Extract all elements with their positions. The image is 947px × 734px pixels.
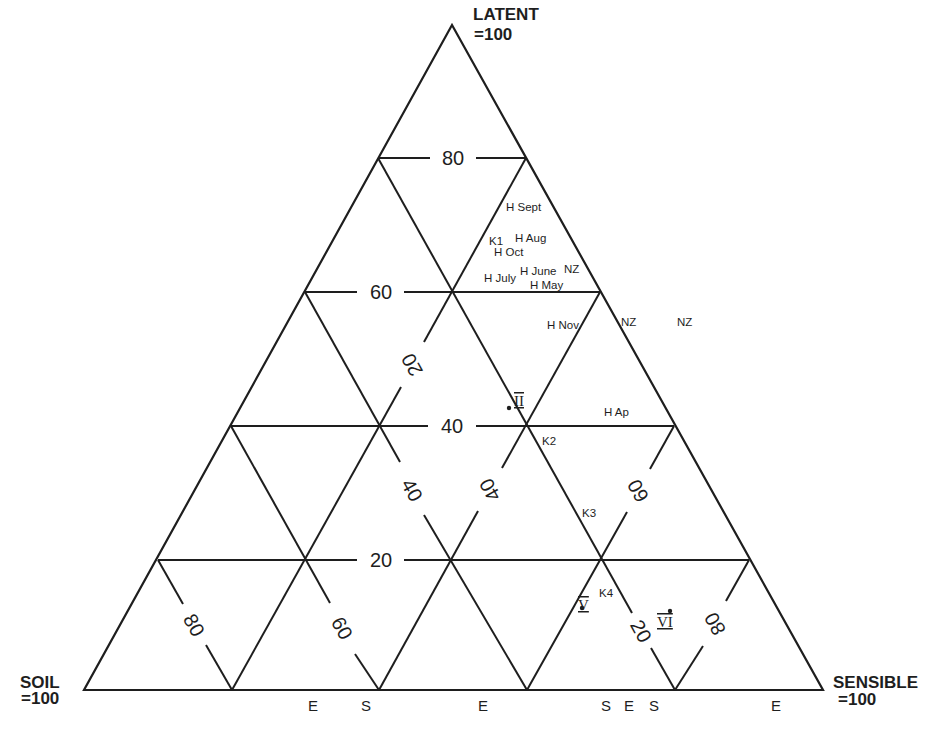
point-ii: II [514,393,524,409]
ternary-diagram: 80 60 40 20 20 40 40 60 80 60 20 80 LATE… [0,0,947,734]
base-mark-s: S [361,697,371,714]
vertex-sensible-value: =100 [838,690,876,709]
vertex-latent-value: =100 [474,25,512,44]
point-h-june: H June [520,265,556,277]
base-mark-s: S [601,697,611,714]
point-k3: K3 [582,507,596,519]
vertex-soil-value: =100 [21,689,59,708]
point-nz-3: NZ [677,316,692,328]
base-mark-e: E [308,697,318,714]
point-k4: K4 [599,587,614,599]
point-ii-dot [507,406,511,410]
tick-diag-60-left: 60 [327,613,357,643]
tick-diag-20-lower: 20 [626,616,656,646]
base-mark-s: S [649,697,659,714]
tick-diag-20-upper: 20 [397,350,427,380]
point-h-aug: H Aug [515,232,546,244]
tick-latent-60: 60 [370,281,392,303]
tick-diag-60-right: 60 [623,476,653,506]
point-k2: K2 [542,435,556,447]
point-h-oct: H Oct [494,246,524,258]
point-h-may: H May [530,279,563,291]
tick-latent-80: 80 [442,147,464,169]
point-vi: VI [657,614,673,630]
tick-diag-80-left: 80 [179,610,209,640]
vertex-latent-label: LATENT [473,5,539,24]
tick-diag-40-right: 40 [475,475,505,505]
tick-latent-40: 40 [441,415,463,437]
data-points: H Sept K1 H Aug H Oct H July H June NZ H… [484,201,692,630]
point-nz-1: NZ [564,263,579,275]
point-vi-dot [668,609,672,613]
base-marks: E S E S E S E [308,697,781,714]
point-v: V [578,597,589,613]
triangle-outline [84,25,823,690]
point-nz-2: NZ [621,316,636,328]
point-h-july: H July [484,272,516,284]
horizontal-grid-lines [158,158,749,560]
soil-grid-lines [158,158,675,690]
point-h-ap: H Ap [604,406,629,418]
tick-latent-20: 20 [370,549,392,571]
tick-diag-80-right: 80 [700,609,730,639]
base-mark-e: E [624,697,634,714]
point-h-nov: H Nov [547,319,579,331]
tick-diag-40-left: 40 [397,475,427,505]
base-mark-e: E [771,697,781,714]
base-mark-e: E [478,697,488,714]
point-h-sept: H Sept [506,201,542,213]
